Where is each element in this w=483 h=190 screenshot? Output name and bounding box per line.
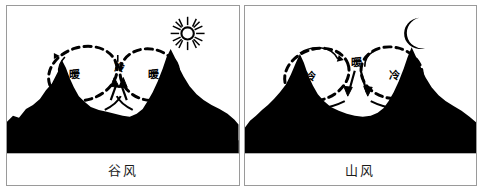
valley-wind-scene: 暖 冷 暖 <box>7 6 239 153</box>
valley-wind-labels: 暖 冷 暖 <box>7 6 239 153</box>
panel-valley-wind: 暖 冷 暖 谷风 <box>6 5 240 186</box>
temperature-label-cold-left: 冷 <box>305 70 316 84</box>
caption-mountain-wind: 山风 <box>245 154 477 185</box>
temperature-label-warm-left: 暖 <box>69 67 80 81</box>
temperature-label-cold-center: 冷 <box>114 60 125 74</box>
caption-valley-wind: 谷风 <box>7 154 239 185</box>
temperature-label-warm-right: 暖 <box>148 67 159 81</box>
mountain-wind-labels: 冷 暖 冷 <box>245 6 477 153</box>
mountain-wind-scene: 冷 暖 冷 <box>245 6 477 153</box>
panel-mountain-wind: 冷 暖 冷 山风 <box>244 5 478 186</box>
mountain-valley-breeze-figure: 暖 冷 暖 谷风 <box>0 0 483 190</box>
temperature-label-warm-center: 暖 <box>351 55 362 69</box>
temperature-label-cold-right: 冷 <box>389 68 400 82</box>
